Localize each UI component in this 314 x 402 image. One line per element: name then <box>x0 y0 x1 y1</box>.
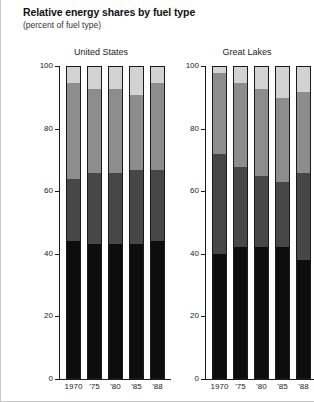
bar-segment-segment-3-medium-gray <box>109 89 122 173</box>
y-axis-tick <box>55 379 60 380</box>
bar-segment-segment-4-light-gray <box>109 67 122 89</box>
y-axis-tick <box>55 316 60 317</box>
bar-segment-segment-3-medium-gray <box>151 83 164 170</box>
bar-great-lakes-88 <box>296 66 311 379</box>
x-axis-label: '88 <box>290 382 314 391</box>
bar-segment-segment-2-dark-gray <box>109 173 122 245</box>
y-axis-line <box>205 66 206 379</box>
y-axis-tick-label: 40 <box>190 253 199 254</box>
y-axis-tick-label: 20 <box>190 315 199 316</box>
bar-segment-segment-2-dark-gray <box>130 170 143 245</box>
bar-segment-segment-3-medium-gray <box>255 89 268 176</box>
bar-great-lakes-85 <box>275 66 290 379</box>
panel-title-united-states: United States <box>31 47 171 57</box>
bar-segment-segment-4-light-gray <box>234 67 247 83</box>
y-axis-tick <box>201 191 206 192</box>
bar-segment-segment-1-black <box>297 260 310 378</box>
bar-segment-segment-2-dark-gray <box>88 173 101 245</box>
y-axis-tick-label: 100 <box>186 65 199 66</box>
panel-great-lakes: Great Lakes 0204060801001970'75'80'85'88 <box>179 0 314 402</box>
bar-great-lakes-75 <box>233 66 248 379</box>
y-axis-tick-label: 40 <box>44 253 53 254</box>
bar-united-states-80 <box>108 66 123 379</box>
y-axis-tick-label: 60 <box>44 190 53 191</box>
bar-segment-segment-1-black <box>234 247 247 378</box>
bar-segment-segment-2-dark-gray <box>213 154 226 254</box>
y-axis-tick <box>201 66 206 67</box>
bar-segment-segment-1-black <box>151 241 164 378</box>
bar-segment-segment-2-dark-gray <box>276 182 289 247</box>
bar-united-states-88 <box>150 66 165 379</box>
x-axis-line <box>59 379 171 380</box>
bar-great-lakes-1970 <box>212 66 227 379</box>
bar-segment-segment-1-black <box>109 244 122 378</box>
bar-segment-segment-2-dark-gray <box>151 170 164 242</box>
y-axis-tick-label: 100 <box>40 65 53 66</box>
y-axis-tick-label: 80 <box>190 128 199 129</box>
bar-segment-segment-2-dark-gray <box>255 176 268 248</box>
chart-page: Relative energy shares by fuel type (per… <box>0 0 314 402</box>
bar-united-states-1970 <box>66 66 81 379</box>
y-axis-tick-label: 0 <box>195 378 199 379</box>
bar-segment-segment-2-dark-gray <box>67 179 80 241</box>
bar-segment-segment-4-light-gray <box>151 67 164 83</box>
bar-segment-segment-3-medium-gray <box>130 95 143 170</box>
bar-segment-segment-4-light-gray <box>88 67 101 89</box>
bar-segment-segment-4-light-gray <box>213 67 226 73</box>
bar-segment-segment-1-black <box>213 254 226 378</box>
y-axis-tick <box>201 316 206 317</box>
panel-united-states: United States 0204060801001970'75'80'85'… <box>31 0 171 402</box>
plot-area-great-lakes: 0204060801001970'75'80'85'88 <box>205 66 314 380</box>
y-axis-tick-label: 20 <box>44 315 53 316</box>
y-axis-tick <box>55 254 60 255</box>
bar-segment-segment-3-medium-gray <box>234 83 247 167</box>
bar-great-lakes-80 <box>254 66 269 379</box>
bar-united-states-75 <box>87 66 102 379</box>
bar-segment-segment-1-black <box>67 241 80 378</box>
y-axis-tick-label: 60 <box>190 190 199 191</box>
y-axis-tick <box>201 129 206 130</box>
bar-segment-segment-3-medium-gray <box>213 73 226 154</box>
bar-segment-segment-4-light-gray <box>297 67 310 92</box>
bar-segment-segment-2-dark-gray <box>297 173 310 260</box>
x-axis-line <box>205 379 314 380</box>
bar-segment-segment-3-medium-gray <box>297 92 310 173</box>
bar-segment-segment-3-medium-gray <box>88 89 101 173</box>
bar-segment-segment-4-light-gray <box>255 67 268 89</box>
y-axis-tick <box>201 379 206 380</box>
y-axis-tick <box>201 254 206 255</box>
bar-segment-segment-4-light-gray <box>67 67 80 83</box>
bar-segment-segment-3-medium-gray <box>276 98 289 182</box>
bar-segment-segment-1-black <box>255 247 268 378</box>
bar-segment-segment-1-black <box>88 244 101 378</box>
panel-title-great-lakes: Great Lakes <box>179 47 314 57</box>
bar-segment-segment-2-dark-gray <box>234 167 247 248</box>
bar-segment-segment-1-black <box>130 244 143 378</box>
bar-segment-segment-4-light-gray <box>276 67 289 98</box>
y-axis-tick <box>55 129 60 130</box>
bar-segment-segment-4-light-gray <box>130 67 143 95</box>
y-axis-tick-label: 80 <box>44 128 53 129</box>
bar-segment-segment-1-black <box>276 247 289 378</box>
bar-united-states-85 <box>129 66 144 379</box>
y-axis-line <box>59 66 60 379</box>
y-axis-tick <box>55 66 60 67</box>
x-axis-label: '88 <box>144 382 171 391</box>
y-axis-tick <box>55 191 60 192</box>
plot-area-united-states: 0204060801001970'75'80'85'88 <box>59 66 171 380</box>
bar-segment-segment-3-medium-gray <box>67 83 80 179</box>
y-axis-tick-label: 0 <box>49 378 53 379</box>
